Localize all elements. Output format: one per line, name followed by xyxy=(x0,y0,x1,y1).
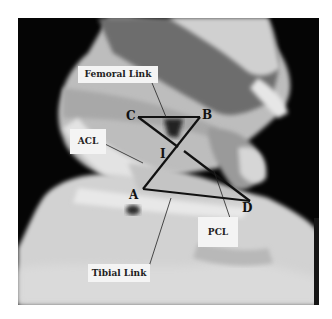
label-tibial-link: Tibial Link xyxy=(88,264,150,282)
knee-photograph: Femoral Link ACL PCL Tibial Link C B I A… xyxy=(18,18,319,305)
anatomy-illustration xyxy=(18,18,319,305)
point-a: A xyxy=(129,188,138,202)
point-b: B xyxy=(202,108,212,122)
point-c: C xyxy=(126,109,136,123)
label-pcl: PCL xyxy=(198,217,238,247)
point-d: D xyxy=(242,201,252,215)
point-i: I xyxy=(160,147,166,161)
label-acl: ACL xyxy=(70,129,106,154)
label-femoral-link: Femoral Link xyxy=(78,66,158,83)
